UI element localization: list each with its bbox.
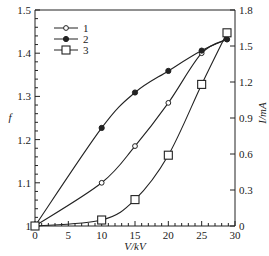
- filled-circle-marker: [199, 48, 204, 53]
- open-square-marker: [98, 216, 106, 224]
- legend-item-3: 3: [54, 44, 89, 56]
- y-tick-label: 1.2: [17, 134, 31, 146]
- open-square-marker: [62, 46, 70, 54]
- x-tick-label: 10: [96, 229, 108, 241]
- y-axis-title: f: [8, 111, 13, 123]
- y-tick-label: 1.5: [17, 4, 31, 16]
- open-circle-marker: [133, 144, 138, 149]
- open-square-marker: [131, 196, 139, 204]
- filled-circle-marker: [99, 125, 104, 130]
- filled-circle-marker: [132, 90, 137, 95]
- y2-tick-label: 1.5: [239, 40, 253, 52]
- filled-circle-marker: [166, 68, 171, 73]
- plot-series: [31, 29, 231, 230]
- open-circle-marker: [64, 26, 69, 31]
- series-3: [31, 29, 231, 230]
- y2-tick-label: 1.8: [239, 4, 253, 16]
- y-tick-label: 1.1: [17, 177, 31, 189]
- open-square-marker: [31, 222, 39, 230]
- open-square-marker: [164, 151, 172, 159]
- legend: 123: [54, 22, 89, 56]
- chart: 051015202530 11.11.21.31.41.5 00.30.60.9…: [0, 0, 269, 256]
- y2-tick-label: 1.2: [239, 76, 253, 88]
- open-square-marker: [198, 80, 206, 88]
- y-tick-label: 1.3: [17, 90, 31, 102]
- filled-circle-marker: [63, 36, 68, 41]
- x-tick-label: 25: [196, 229, 208, 241]
- y2-tick-label: 0.3: [239, 184, 253, 196]
- open-square-marker: [223, 29, 231, 37]
- y-axis-left: 11.11.21.31.41.5: [17, 4, 40, 232]
- y2-axis-title: I/mA: [256, 102, 268, 125]
- y2-tick-label: 0.6: [239, 148, 253, 160]
- plot-border: [35, 10, 235, 226]
- y2-tick-label: 0: [239, 220, 245, 232]
- x-tick-label: 20: [163, 229, 175, 241]
- x-axis-title: V/kV: [124, 240, 147, 252]
- y-tick-label: 1: [26, 220, 32, 232]
- x-tick-label: 5: [66, 229, 72, 241]
- legend-label: 3: [83, 44, 89, 56]
- x-tick-label: 0: [32, 229, 38, 241]
- y2-tick-label: 0.9: [239, 112, 253, 124]
- y-tick-label: 1.4: [17, 47, 31, 59]
- plot-frame: [35, 10, 235, 226]
- open-circle-marker: [166, 100, 171, 105]
- open-circle-marker: [99, 180, 104, 185]
- y-axis-right: 00.30.60.91.21.51.8: [230, 4, 253, 232]
